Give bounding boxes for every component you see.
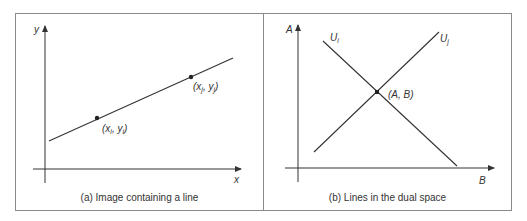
image-space-plot: y x (xi, yi) (xj, yj): [16, 14, 265, 212]
dual-space-plot: A B Ui Uj (A, B): [264, 14, 513, 212]
hough-transform-figure: y x (xi, yi) (xj, yj) (a) Image containi…: [0, 0, 527, 221]
y-axis-label: y: [33, 24, 40, 35]
x-axis-label: x: [233, 174, 240, 185]
b-axis-label: B: [479, 175, 486, 186]
intersection-label: (A, B): [388, 89, 414, 100]
caption-a: (a) Image containing a line: [16, 192, 263, 203]
line-uj-label: Uj: [440, 33, 449, 46]
image-line: [49, 58, 233, 141]
point-i-label: (xi, yi): [102, 123, 127, 135]
point-j: [189, 75, 193, 79]
line-ui: [323, 41, 457, 166]
point-j-label: (xj, yj): [193, 81, 218, 94]
point-i: [95, 116, 99, 120]
line-ui-label: Ui: [330, 32, 339, 44]
caption-b: (b) Lines in the dual space: [264, 192, 511, 203]
panel-image-space: y x (xi, yi) (xj, yj) (a) Image containi…: [15, 13, 264, 211]
intersection-point: [375, 90, 379, 94]
a-axis-label: A: [285, 24, 293, 35]
panel-dual-space: A B Ui Uj (A, B) (b) Lines in the dual s…: [263, 13, 512, 211]
